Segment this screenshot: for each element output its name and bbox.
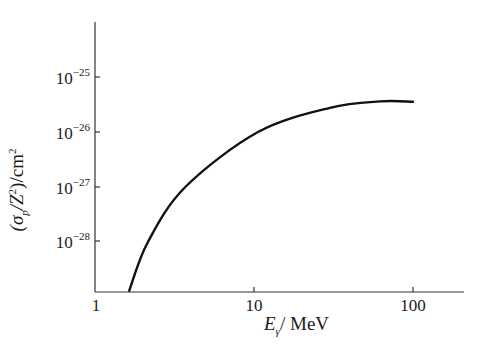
y-tick-label-1e-25: 10−25	[30, 66, 90, 89]
x-ticks	[254, 287, 413, 292]
y-axis-label: (σp/Z2)/cm2	[6, 149, 30, 232]
y-tick-label-1e-28: 10−28	[30, 230, 90, 253]
x-tick-label-100: 100	[400, 296, 426, 316]
x-tick-label-10: 10	[246, 296, 263, 316]
x-tick-label-1: 1	[92, 296, 101, 316]
y-tick-label-1e-26: 10−26	[30, 121, 90, 144]
y-ticks	[95, 77, 100, 241]
y-tick-label-1e-27: 10−27	[30, 176, 90, 199]
x-axis-label: Eγ/ MeV	[264, 313, 329, 337]
data-curve	[129, 101, 413, 291]
